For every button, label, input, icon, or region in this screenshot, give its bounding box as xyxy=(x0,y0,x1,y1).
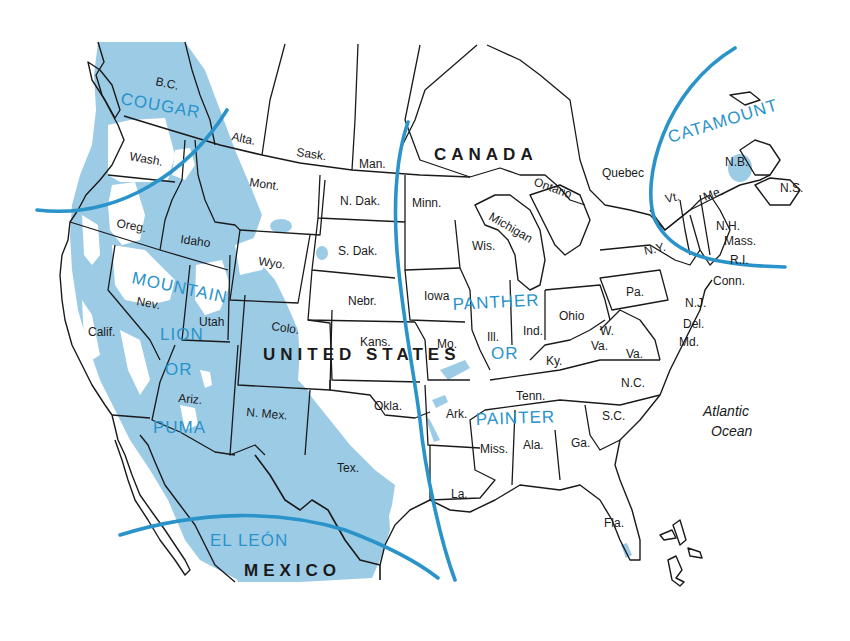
label-tex: Tex. xyxy=(337,461,359,475)
label-sdak: S. Dak. xyxy=(338,244,377,258)
catamount-boundary xyxy=(651,48,785,267)
label-mo: Mo. xyxy=(437,337,457,351)
label-conn: Conn. xyxy=(713,274,745,288)
label-ky: Ky. xyxy=(546,354,562,368)
cougar-range-map: CANADA UNITED STATES MEXICO Atlantic Oce… xyxy=(0,0,850,641)
label-okla: Okla. xyxy=(374,399,402,413)
label-nj: N.J. xyxy=(685,296,706,310)
label-nb: N.B. xyxy=(725,155,748,169)
label-iowa: Iowa xyxy=(424,289,450,303)
label-mont: Mont. xyxy=(249,175,281,193)
label-md: Md. xyxy=(679,335,699,349)
label-utah: Utah xyxy=(199,315,224,329)
label-wis: Wis. xyxy=(472,239,495,253)
label-ga: Ga. xyxy=(571,436,590,450)
label-ala: Ala. xyxy=(523,438,544,452)
ocean-label-line2: Ocean xyxy=(711,423,752,439)
label-ind: Ind. xyxy=(523,324,543,338)
label-painter: PAINTER xyxy=(475,407,555,429)
ocean-label-line1: Atlantic xyxy=(702,403,749,419)
country-label-canada: CANADA xyxy=(434,145,538,164)
label-minn: Minn. xyxy=(412,196,441,210)
label-kans: Kans. xyxy=(360,335,391,349)
label-ny: N.Y. xyxy=(643,240,667,258)
label-catamount: CATAMOUNT xyxy=(666,95,781,147)
label-ill: Ill. xyxy=(487,330,499,344)
label-ri: R.I. xyxy=(730,253,749,267)
label-del: Del. xyxy=(683,317,704,331)
label-lion: LION xyxy=(160,325,204,344)
label-wva-line2: Va. xyxy=(591,339,608,353)
label-vt: Vt. xyxy=(664,189,681,206)
label-ohio: Ohio xyxy=(559,309,585,323)
label-la: La. xyxy=(451,487,468,501)
label-nebr: Nebr. xyxy=(348,294,377,308)
label-panther: PANTHER xyxy=(452,290,540,314)
label-tenn: Tenn. xyxy=(516,389,545,403)
label-puma: PUMA xyxy=(153,418,206,437)
ocean-label: Atlantic Ocean xyxy=(702,403,752,439)
country-label-mexico: MEXICO xyxy=(244,561,341,580)
label-or-east: OR xyxy=(491,344,519,363)
label-sc: S.C. xyxy=(602,409,625,423)
label-calif: Calif. xyxy=(88,325,115,339)
label-pa: Pa. xyxy=(626,285,644,299)
label-ark: Ark. xyxy=(446,407,467,421)
label-va: Va. xyxy=(626,347,643,361)
label-miss: Miss. xyxy=(480,442,508,456)
label-fla: Fla. xyxy=(604,516,624,530)
label-man: Man. xyxy=(359,157,386,171)
label-ndak: N. Dak. xyxy=(340,194,380,208)
label-ns: N.S. xyxy=(780,181,803,195)
label-ontario: Ontario xyxy=(532,175,574,202)
label-sask: Sask. xyxy=(296,145,328,163)
label-mass: Mass. xyxy=(724,234,756,248)
cougar-range-area xyxy=(70,42,752,582)
label-nc: N.C. xyxy=(621,376,645,390)
label-ariz: Ariz. xyxy=(178,391,203,407)
label-quebec: Quebec xyxy=(602,166,644,180)
label-or-west: OR xyxy=(165,360,193,379)
label-me: Me. xyxy=(701,184,725,204)
label-wva-line1: W. xyxy=(600,324,614,338)
label-nh: N.H. xyxy=(716,219,740,233)
label-alta: Alta. xyxy=(230,129,256,148)
label-el-leon: EL LEÓN xyxy=(210,531,288,550)
